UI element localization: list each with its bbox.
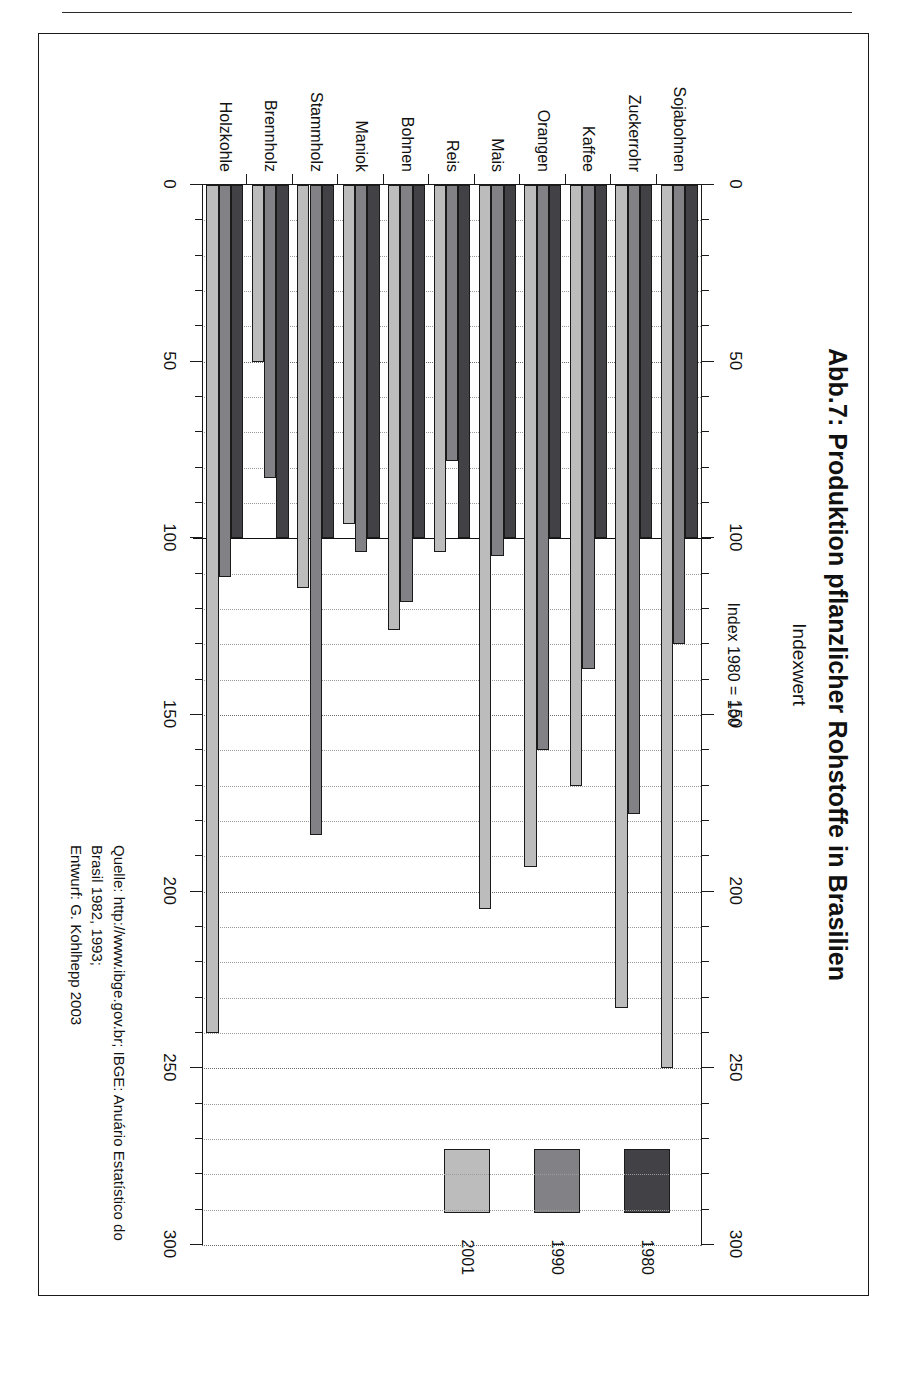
axis-tick-top-190 xyxy=(701,855,709,856)
axis-tick-top-200 xyxy=(701,891,714,892)
source-line-1: Quelle: http://www.ibge.gov.br; IBGE: An… xyxy=(87,845,131,1275)
axis-tick-label-bottom-0: 0 xyxy=(159,179,179,188)
figure-subtitle: Index 1980 = 100 xyxy=(724,34,742,1295)
category-label-brennholz: Brennholz xyxy=(261,100,279,172)
bar-group: Reis xyxy=(429,185,474,1244)
bar-kaffee-2001 xyxy=(570,185,582,786)
bar-reis-2001 xyxy=(434,185,446,552)
axis-tick-top-250 xyxy=(701,1067,714,1068)
bar-group: Maniok xyxy=(338,185,383,1244)
gridline-300 xyxy=(202,1245,702,1246)
category-label-stammholz: Stammholz xyxy=(307,92,325,172)
axis-tick-top-160 xyxy=(701,749,709,750)
bar-group: Holzkohle xyxy=(202,185,247,1244)
category-label-mais: Mais xyxy=(488,138,506,172)
bar-reis-1990 xyxy=(446,185,458,461)
axis-tick-label-bottom-200: 200 xyxy=(159,876,179,904)
axis-tick-top-110 xyxy=(701,573,709,574)
bar-reis-1980 xyxy=(458,185,470,538)
plot-area: SojabohnenZuckerrohrKaffeeOrangenMaisRei… xyxy=(202,184,702,1244)
axis-tick-top-60 xyxy=(701,396,709,397)
bar-sojabohnen-2001 xyxy=(661,185,673,1068)
bar-kaffee-1980 xyxy=(595,185,607,538)
axis-tick-top-300 xyxy=(701,1244,714,1245)
bar-mais-1980 xyxy=(504,185,516,538)
axis-tick-label-bottom-100: 100 xyxy=(159,523,179,551)
bar-stammholz-1990 xyxy=(310,185,322,835)
axis-tick-top-10 xyxy=(701,219,709,220)
axis-tick-top-170 xyxy=(701,785,709,786)
bar-zuckerrohr-1990 xyxy=(628,185,640,814)
category-label-holzkohle: Holzkohle xyxy=(216,102,234,172)
rotated-stage: Abb.7: Produktion pflanzlicher Rohstoffe… xyxy=(39,34,870,1295)
bar-zuckerrohr-1980 xyxy=(640,185,652,538)
axis-tick-top-220 xyxy=(701,961,709,962)
axis-tick-top-270 xyxy=(701,1138,709,1139)
bar-holzkohle-1990 xyxy=(219,185,231,577)
bar-orangen-1990 xyxy=(537,185,549,750)
figure-frame: Abb.7: Produktion pflanzlicher Rohstoffe… xyxy=(38,33,869,1296)
bar-group: Orangen xyxy=(520,185,565,1244)
axis-tick-top-0 xyxy=(701,184,714,185)
bar-maniok-1990 xyxy=(355,185,367,552)
bar-holzkohle-1980 xyxy=(231,185,243,538)
category-separator-tick xyxy=(519,174,520,185)
bar-stammholz-2001 xyxy=(297,185,309,588)
category-separator-tick xyxy=(383,174,384,185)
axis-tick-top-130 xyxy=(701,643,709,644)
category-label-maniok: Maniok xyxy=(352,120,370,172)
axis-tick-top-210 xyxy=(701,926,709,927)
axis-tick-top-30 xyxy=(701,290,709,291)
bar-brennholz-2001 xyxy=(252,185,264,362)
bar-group: Zuckerrohr xyxy=(611,185,656,1244)
axis-tick-top-90 xyxy=(701,502,709,503)
category-separator-tick xyxy=(565,174,566,185)
axis-tick-top-70 xyxy=(701,431,709,432)
axis-tick-top-120 xyxy=(701,608,709,609)
axis-tick-top-50 xyxy=(701,361,714,362)
bar-brennholz-1990 xyxy=(264,185,276,478)
category-label-orangen: Orangen xyxy=(534,110,552,172)
bar-mais-2001 xyxy=(479,185,491,909)
bar-stammholz-1980 xyxy=(322,185,334,538)
page-running-header xyxy=(62,0,852,6)
axis-tick-top-40 xyxy=(701,325,709,326)
bar-zuckerrohr-2001 xyxy=(615,185,627,1008)
axis-tick-label-bottom-300: 300 xyxy=(159,1230,179,1258)
category-separator-tick xyxy=(246,174,247,185)
axis-tick-label-bottom-50: 50 xyxy=(159,351,179,370)
bar-group: Brennholz xyxy=(247,185,292,1244)
bar-sojabohnen-1990 xyxy=(673,185,685,644)
bar-group: Stammholz xyxy=(293,185,338,1244)
axis-tick-top-260 xyxy=(701,1103,709,1104)
x-axis-title: Indexwert xyxy=(788,34,810,1295)
bar-orangen-2001 xyxy=(524,185,536,867)
category-separator-tick xyxy=(610,174,611,185)
axis-tick-top-150 xyxy=(701,714,714,715)
category-separator-tick xyxy=(428,174,429,185)
bar-maniok-2001 xyxy=(343,185,355,524)
axis-tick-top-240 xyxy=(701,1032,709,1033)
axis-tick-top-180 xyxy=(701,820,709,821)
category-label-zuckerrohr: Zuckerrohr xyxy=(625,95,643,172)
page-header-rule xyxy=(62,12,852,13)
category-label-kaffee: Kaffee xyxy=(579,126,597,172)
bar-sojabohnen-1980 xyxy=(685,185,697,538)
axis-tick-top-140 xyxy=(701,679,709,680)
bar-group: Sojabohnen xyxy=(657,185,702,1244)
bar-orangen-1980 xyxy=(549,185,561,538)
category-separator-tick xyxy=(337,174,338,185)
bar-holzkohle-2001 xyxy=(206,185,218,1033)
axis-tick-top-20 xyxy=(701,255,709,256)
axis-tick-label-bottom-250: 250 xyxy=(159,1053,179,1081)
category-label-bohnen: Bohnen xyxy=(398,117,416,172)
bar-group: Mais xyxy=(475,185,520,1244)
bar-kaffee-1990 xyxy=(582,185,594,669)
bar-brennholz-1980 xyxy=(276,185,288,538)
bar-group: Kaffee xyxy=(566,185,611,1244)
bar-group: Bohnen xyxy=(384,185,429,1244)
bar-bohnen-1990 xyxy=(400,185,412,602)
bar-bohnen-1980 xyxy=(413,185,425,538)
category-label-reis: Reis xyxy=(443,140,461,172)
category-label-sojabohnen: Sojabohnen xyxy=(670,87,688,172)
